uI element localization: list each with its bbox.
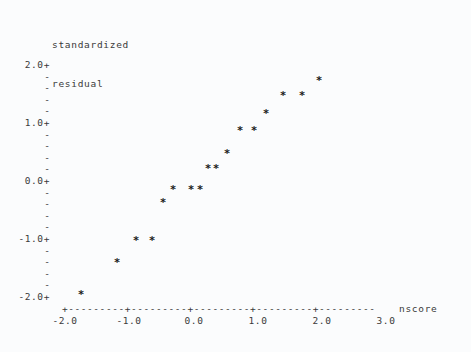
y-minor-tick: - [6,140,50,151]
y-axis-label-0.0: 0.0+ [6,175,50,186]
x-axis-label-neg2.0: -2.0 [52,315,77,326]
x-axis-label-neg1.0: -1.0 [116,315,141,326]
data-point: * [114,257,121,268]
x-axis-name: nscore [399,303,438,314]
normal-probability-plot: standardized residual 2.0+ 1.0+ 0.0+ -1.… [0,0,471,352]
data-point: * [237,125,244,136]
y-minor-tick: - [6,94,50,105]
y-minor-tick: - [6,82,50,93]
y-axis-label-1.0: 1.0+ [6,117,50,128]
x-axis-label-0.0: 0.0 [185,315,204,326]
data-point: * [197,184,204,195]
x-axis-label-2.0: 2.0 [313,315,332,326]
y-minor-tick: - [6,152,50,163]
data-point: * [78,289,85,300]
data-point: * [205,163,212,174]
data-point: * [263,108,270,119]
data-point: * [149,235,156,246]
y-minor-tick: - [6,187,50,198]
data-point: * [160,197,167,208]
y-minor-tick: - [6,129,50,140]
data-point: * [280,90,287,101]
y-axis-label-neg1.0: -1.0+ [6,233,50,244]
chart-title-line-2: residual [52,77,129,90]
chart-title: standardized residual [52,12,129,116]
y-minor-tick: - [6,245,50,256]
y-minor-tick: - [6,279,50,290]
data-point: * [213,163,220,174]
y-minor-tick: - [6,198,50,209]
y-minor-tick: - [6,105,50,116]
data-point: * [299,90,306,101]
y-axis-label-neg2.0: -2.0+ [6,291,50,302]
y-minor-tick: - [6,71,50,82]
y-minor-tick: - [6,163,50,174]
data-point: * [133,235,140,246]
x-axis-label-3.0: 3.0 [377,315,396,326]
x-axis-line: +---------+---------+---------+---------… [62,303,375,314]
y-minor-tick: - [6,256,50,267]
y-minor-tick: - [6,221,50,232]
y-minor-tick: - [6,268,50,279]
y-minor-tick: - [6,210,50,221]
x-axis-label-1.0: 1.0 [249,315,268,326]
data-point: * [224,148,231,159]
data-point: * [251,125,258,136]
data-point: * [188,184,195,195]
y-axis-label-2.0: 2.0+ [6,59,50,70]
data-point: * [316,75,323,86]
data-point: * [170,184,177,195]
chart-title-line-1: standardized [52,38,129,51]
